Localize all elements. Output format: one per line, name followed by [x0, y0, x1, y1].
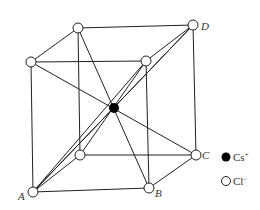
- legend-open-circle-icon: [222, 177, 231, 186]
- cl-ion-c: [191, 150, 201, 160]
- legend-label-cs: Cs+: [233, 151, 249, 163]
- vertex-label-d: D: [200, 20, 209, 32]
- cs-ion-center: [109, 103, 119, 113]
- cl-ion-b: [144, 183, 154, 193]
- legend-label-cl: Cl-: [233, 175, 246, 187]
- cl-ion-back-bottom-left: [75, 150, 85, 160]
- cl-ion-front-top-right: [141, 56, 151, 66]
- legend: Cs+ Cl-: [222, 151, 249, 187]
- vertex-label-c: C: [202, 149, 210, 161]
- cl-ion-back-top-left: [73, 23, 83, 33]
- vertex-label-b: B: [155, 187, 162, 199]
- cl-ion-a: [28, 187, 38, 197]
- cscl-unit-cell-diagram: D C B A Cs+ Cl-: [0, 0, 260, 210]
- cl-ion-front-top-left: [26, 57, 36, 67]
- vertex-label-a: A: [17, 190, 25, 202]
- cl-ion-d: [188, 20, 198, 30]
- legend-filled-circle-icon: [222, 153, 231, 162]
